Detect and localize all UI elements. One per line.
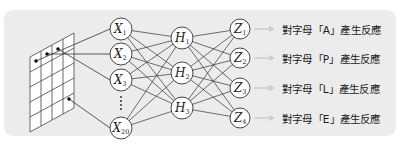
input-node-x3: X3 — [110, 69, 132, 91]
hidden-layer: H1 H2 H3 — [171, 27, 193, 119]
output-node-z1: Z1 — [230, 19, 250, 39]
input-node-x20: X20 — [110, 117, 132, 139]
output-node-z3: Z3 — [230, 78, 250, 98]
output-label-a: 對字母「A」產生反應 — [282, 22, 381, 37]
hidden-node-h2: H2 — [171, 62, 193, 84]
hidden-node-h3: H3 — [171, 97, 193, 119]
input-node-x2: X2 — [110, 43, 132, 65]
arrow-icon — [254, 56, 273, 61]
output-layer: Z1 Z2 Z3 Z4 — [230, 19, 250, 128]
output-node-z2: Z2 — [230, 48, 250, 68]
hidden-node-h1: H1 — [171, 27, 193, 49]
input-node-x1: X1 — [110, 18, 132, 40]
output-label-e: 對字母「E」產生反應 — [282, 111, 381, 126]
output-label-l: 對字母「L」產生反應 — [282, 81, 380, 96]
ellipsis-dots — [120, 96, 122, 110]
output-node-z4: Z4 — [230, 108, 250, 128]
arrow-icon — [254, 27, 273, 32]
output-label-p: 對字母「P」產生反應 — [282, 51, 380, 66]
arrow-icon — [254, 86, 273, 91]
arrow-icon — [254, 116, 273, 121]
output-arrows — [254, 27, 273, 121]
input-layer: X1 X2 X3 X20 — [110, 18, 132, 139]
